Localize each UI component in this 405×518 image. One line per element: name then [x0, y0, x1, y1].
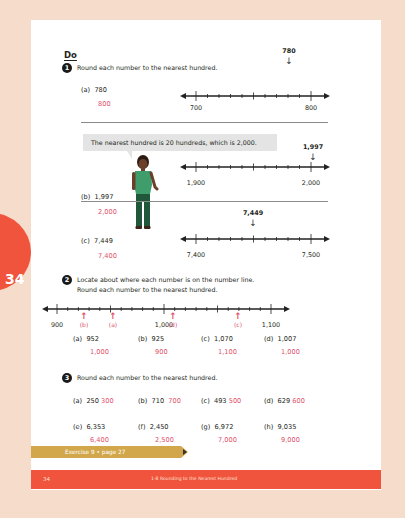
side-tab-page-number: 34 — [5, 271, 24, 287]
q1c-line-start: 7,400 — [187, 251, 205, 259]
question-2-instruction-line2: Round each number to the nearest hundred… — [77, 286, 217, 293]
textbook-page: Do 1 Round each number to the nearest hu… — [31, 20, 381, 490]
number-line-1c — [180, 233, 330, 245]
q3d-answer: 600 — [292, 397, 305, 405]
number-line-1a — [180, 90, 330, 102]
q3h-answer: 9,000 — [281, 436, 300, 444]
q3b-answer: 700 — [168, 397, 181, 405]
q2-arrow-label-b: (b) — [80, 321, 89, 328]
q1b-line-start: 1,900 — [187, 179, 205, 187]
q1a-line-end: 800 — [305, 104, 317, 112]
q3h-label: (h) 9,035 — [264, 423, 296, 431]
q2d-answer: 1,000 — [281, 348, 300, 356]
student-character-illustration — [129, 154, 159, 234]
divider — [81, 201, 328, 202]
q2-line-label-1100: 1,100 — [262, 321, 280, 329]
q1c-label: (c) 7,449 — [81, 237, 113, 245]
q1c-line-end: 7,500 — [302, 251, 320, 259]
q2a-answer: 1,000 — [90, 348, 109, 356]
q3a-item: (a) 250 300 — [73, 397, 114, 405]
q1b-marker-label: 1,997 — [303, 143, 323, 151]
down-arrow-icon: ↓ — [249, 219, 257, 228]
q1a-label: (a) 780 — [81, 86, 107, 94]
q2b-label: (b) 925 — [138, 335, 164, 343]
down-arrow-icon: ↓ — [285, 57, 293, 66]
q3g-label: (g) 6,972 — [201, 423, 233, 431]
q2b-answer: 900 — [155, 348, 168, 356]
speech-bubble: The nearest hundred is 20 hundreds, whic… — [83, 134, 277, 151]
page-footer: 34 1-8 Rounding to the Nearest Hundred — [31, 470, 381, 489]
question-2-badge: 2 — [62, 275, 72, 285]
q2c-answer: 1,100 — [218, 348, 237, 356]
footer-lesson-title: 1-8 Rounding to the Nearest Hundred — [151, 476, 237, 481]
section-heading: Do — [64, 50, 77, 60]
question-1-badge: 1 — [62, 63, 72, 73]
q3d-item: (d) 629 600 — [264, 397, 305, 405]
q1a-answer: 800 — [98, 100, 111, 108]
q2a-label: (a) 952 — [73, 335, 99, 343]
q3f-label: (f) 2,450 — [138, 423, 169, 431]
footer-page-number: 34 — [43, 476, 50, 482]
q1a-marker-label: 780 — [282, 47, 295, 55]
up-arrow-icon: ↑ — [109, 312, 117, 321]
number-line-1b — [180, 161, 330, 173]
up-arrow-icon: ↑ — [80, 312, 88, 321]
q2-line-label-900: 900 — [51, 321, 63, 329]
q1b-label: (b) 1,997 — [81, 193, 113, 201]
q1c-answer: 7,400 — [98, 252, 117, 260]
q3f-answer: 2,500 — [155, 436, 174, 444]
q2-arrow-label-d: (d) — [169, 321, 178, 328]
q3c-answer: 500 — [229, 397, 242, 405]
q1b-answer: 2,000 — [98, 208, 117, 216]
q1a-line-start: 700 — [190, 104, 202, 112]
question-3-instruction: Round each number to the nearest hundred… — [77, 374, 217, 381]
q2-arrow-label-a: (a) — [109, 321, 117, 328]
up-arrow-icon: ↑ — [169, 312, 177, 321]
up-arrow-icon: ↑ — [234, 312, 242, 321]
question-2-instruction-line1: Locate about where each number is on the… — [77, 276, 254, 283]
exercise-link[interactable]: Exercise 9 • page 27 — [31, 446, 181, 458]
q1c-marker-label: 7,449 — [243, 209, 263, 217]
question-1-instruction: Round each number to the nearest hundred… — [77, 64, 217, 71]
number-line-2 — [42, 303, 290, 315]
q3e-label: (e) 6,353 — [73, 423, 105, 431]
q1b-line-end: 2,000 — [302, 179, 320, 187]
play-arrow-icon — [183, 449, 187, 455]
q3e-answer: 6,400 — [90, 436, 109, 444]
question-3-badge: 3 — [62, 373, 72, 383]
q3a-answer: 300 — [101, 397, 114, 405]
divider — [81, 122, 328, 123]
q2c-label: (c) 1,070 — [201, 335, 233, 343]
q3b-item: (b) 710 700 — [138, 397, 181, 405]
q2d-label: (d) 1,007 — [264, 335, 296, 343]
q3g-answer: 7,000 — [218, 436, 237, 444]
q3c-item: (c) 493 500 — [201, 397, 241, 405]
q2-arrow-label-c: (c) — [234, 321, 242, 328]
